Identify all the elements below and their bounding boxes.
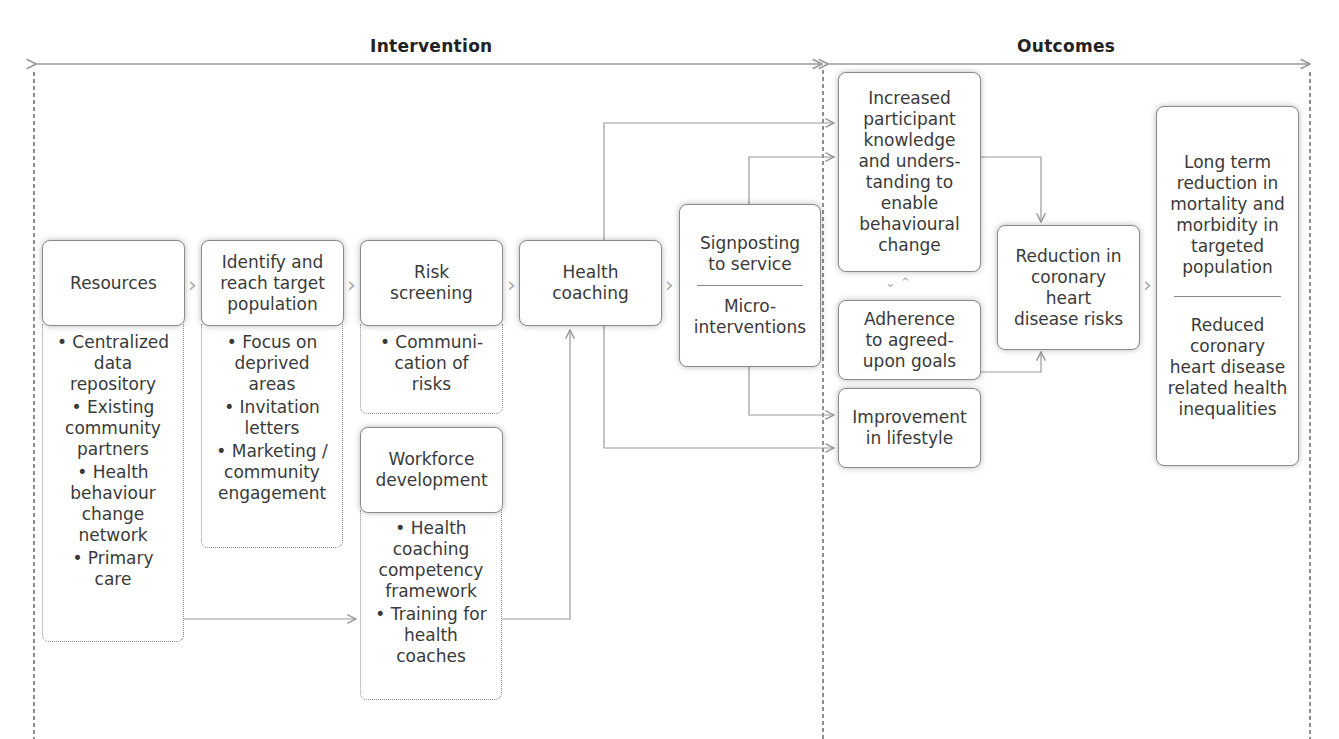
resources-box: Resources <box>42 240 185 326</box>
chevron-right-icon: › <box>188 274 197 296</box>
adherence-box: Adherence to agreed- upon goals <box>838 300 981 380</box>
risk-screening-box: Risk screening <box>360 240 503 326</box>
identify-item: • Focus on deprived areas <box>205 332 339 395</box>
signposting-label: Signposting to service <box>700 233 800 275</box>
chd-risk-box: Reduction in coronary heart disease risk… <box>997 225 1140 350</box>
health-coaching-box: Health coaching <box>519 240 662 326</box>
micro-interventions-label: Micro- interventions <box>694 296 806 338</box>
identify-item: • Invitation letters <box>205 397 339 439</box>
chevron-right-icon: › <box>347 274 356 296</box>
workforce-item: • Training for health coaches <box>364 604 498 667</box>
chevron-right-icon: › <box>507 274 516 296</box>
workforce-box: Workforce development <box>360 427 503 513</box>
workforce-details: • Health coaching competency framework •… <box>360 510 502 700</box>
lifestyle-box: Improvement in lifestyle <box>838 388 981 468</box>
health-inequalities-label: Reduced coronary heart disease related h… <box>1168 315 1287 420</box>
bidirectional-arrows-icon: ⌄⌃ <box>885 275 915 290</box>
divider <box>1174 296 1280 297</box>
chevron-right-icon: › <box>665 274 674 296</box>
resources-details: • Centralized data repository • Existing… <box>42 324 184 642</box>
signposting-box: Signposting to service Micro- interventi… <box>679 204 821 367</box>
long-term-outcomes-box: Long term reduction in mortality and mor… <box>1156 106 1299 466</box>
identify-item: • Marketing / community engagement <box>205 441 339 504</box>
identify-box: Identify and reach target population <box>201 240 344 326</box>
resources-item: • Existing community partners <box>46 397 180 460</box>
outcomes-header: Outcomes <box>1017 36 1115 56</box>
risk-screening-details: • Communi- cation of risks <box>360 324 503 414</box>
resources-item: • Centralized data repository <box>46 332 180 395</box>
workforce-item: • Health coaching competency framework <box>364 518 498 602</box>
risk-screening-item: • Communi- cation of risks <box>364 332 499 395</box>
chevron-right-icon: › <box>1143 274 1152 296</box>
knowledge-box: Increased participant knowledge and unde… <box>838 72 981 272</box>
intervention-header: Intervention <box>370 36 493 56</box>
resources-item: • Primary care <box>46 548 180 590</box>
long-term-mortality-label: Long term reduction in mortality and mor… <box>1170 152 1285 278</box>
identify-details: • Focus on deprived areas • Invitation l… <box>201 324 343 548</box>
resources-item: • Health behaviour change network <box>46 462 180 546</box>
divider <box>697 285 803 286</box>
